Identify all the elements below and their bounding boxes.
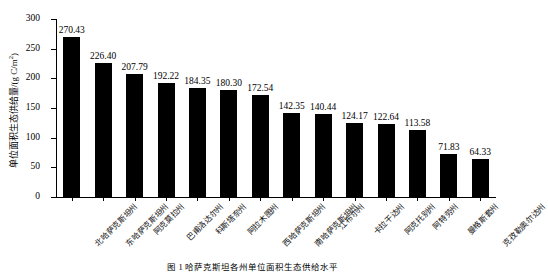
x-axis-category-label: 卡拉干达州	[371, 202, 406, 237]
y-axis-tick-label: 150	[0, 103, 40, 113]
x-axis-tick	[72, 197, 73, 201]
y-axis-tick	[51, 108, 56, 109]
bar	[126, 74, 143, 197]
bar	[346, 123, 363, 197]
x-axis-tick	[323, 197, 324, 201]
bar-value-label: 270.43	[59, 25, 85, 35]
y-axis-tick-label: 250	[0, 44, 40, 54]
bar	[220, 90, 237, 197]
bar-value-label: 207.79	[122, 62, 148, 72]
y-axis-tick-label: 100	[0, 133, 40, 143]
x-axis-tick	[135, 197, 136, 201]
bar-value-label: 180.30	[216, 78, 242, 88]
bar	[158, 83, 175, 197]
x-axis-line	[56, 197, 496, 198]
x-axis-category-label: 阿拉木图州	[246, 202, 281, 237]
x-axis-tick	[166, 197, 167, 201]
x-axis-tick	[292, 197, 293, 201]
bar	[315, 114, 332, 197]
y-axis-tick	[51, 167, 56, 168]
x-axis-category-label: 阿克托别州	[403, 202, 438, 237]
bar-value-label: 192.22	[153, 71, 179, 81]
x-axis-category-label: 曼格斯套州	[466, 202, 501, 237]
x-axis-category-label: 克孜勒奥尔达州	[502, 202, 548, 248]
bar	[409, 130, 426, 197]
x-axis-tick	[417, 197, 418, 201]
bar	[95, 63, 112, 197]
bar-value-label: 113.58	[405, 118, 431, 128]
bar	[189, 88, 206, 197]
bar	[252, 95, 269, 197]
bar	[440, 154, 457, 197]
x-axis-tick	[449, 197, 450, 201]
y-axis-tick-label: 300	[0, 14, 40, 24]
bar	[63, 37, 80, 197]
bar-value-label: 124.17	[342, 111, 368, 121]
x-axis-tick	[260, 197, 261, 201]
y-axis-tick	[51, 49, 56, 50]
y-axis-tick-label: 50	[0, 162, 40, 172]
bar-value-label: 71.83	[438, 142, 459, 152]
bar-value-label: 64.33	[470, 147, 491, 157]
bar-value-label: 184.35	[184, 76, 210, 86]
y-axis-tick	[51, 138, 56, 139]
x-axis-tick	[480, 197, 481, 201]
bar	[283, 113, 300, 197]
bar-value-label: 226.40	[90, 51, 116, 61]
y-axis-tick	[51, 197, 56, 198]
x-axis-tick	[386, 197, 387, 201]
bar-value-label: 172.54	[247, 83, 273, 93]
y-axis-title-exponent: 2	[7, 56, 14, 59]
bar-value-label: 142.35	[279, 101, 305, 111]
x-axis-tick	[197, 197, 198, 201]
y-axis-tick-label: 200	[0, 73, 40, 83]
x-axis-tick	[355, 197, 356, 201]
bar-value-label: 140.44	[310, 102, 336, 112]
y-axis-tick	[51, 19, 56, 20]
bar	[472, 159, 489, 197]
y-axis-tick	[51, 78, 56, 79]
y-axis-title-tail: )	[9, 53, 19, 56]
y-axis-line	[56, 19, 57, 197]
bar-value-label: 122.64	[373, 112, 399, 122]
plot-area: 050100150200250300 270.43226.40207.79192…	[56, 19, 496, 197]
figure-caption: 图 1 哈萨克斯坦各州单位面积生态供给水平	[0, 262, 505, 273]
x-axis-tick	[229, 197, 230, 201]
bar	[378, 124, 395, 197]
x-axis-tick	[103, 197, 104, 201]
y-axis-tick-label: 0	[0, 192, 40, 202]
